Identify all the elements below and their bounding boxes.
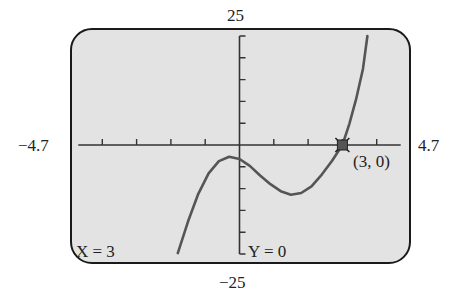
x-max-label: 4.7 — [418, 137, 439, 154]
trace-cursor-icon — [335, 138, 349, 152]
point-label: (3, 0) — [353, 153, 390, 170]
y-min-label: −25 — [219, 274, 246, 291]
y-readout: Y = 0 — [248, 243, 286, 260]
x-readout: X = 3 — [76, 243, 115, 260]
y-max-label: 25 — [227, 7, 244, 24]
axes — [78, 36, 400, 254]
calculator-screen: (3, 0) X = 3 Y = 0 — [70, 28, 411, 264]
x-min-label: −4.7 — [18, 137, 49, 154]
graph-plot — [72, 30, 409, 262]
